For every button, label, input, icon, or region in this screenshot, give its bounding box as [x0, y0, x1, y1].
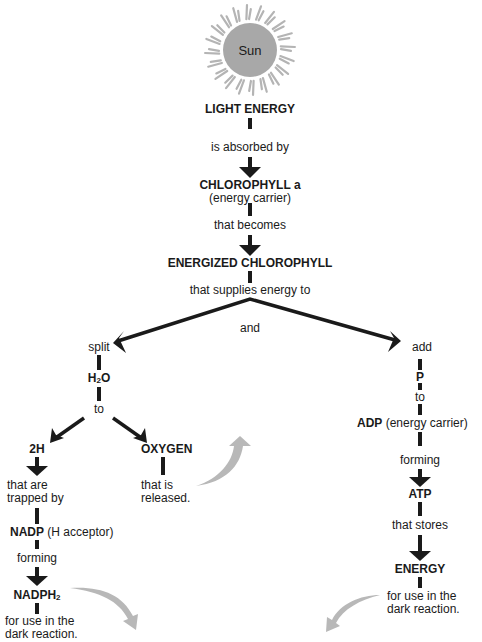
arrowhead-right-icon [388, 331, 401, 352]
nadph-use-line2: dark reaction. [5, 628, 78, 641]
forming-label-right: forming [400, 454, 440, 467]
h2o-main: H [88, 371, 97, 385]
released-line2: released. [141, 492, 190, 505]
adp-label: ADP (energy carrier) [357, 417, 468, 430]
energy-use-line2: dark reaction. [387, 603, 460, 616]
chlorophyll-energy-carrier-label: (energy carrier) [209, 192, 291, 205]
h2o-split-arrows [57, 418, 140, 437]
nadph-to-dark-reaction-arrow-icon [70, 588, 138, 630]
nadph-main: NADPH [13, 588, 56, 602]
and-label: and [240, 322, 260, 335]
adp-name: ADP [357, 416, 382, 430]
light-energy-label: LIGHT ENERGY [205, 103, 295, 116]
forming-label-left: forming [17, 552, 57, 565]
absorbed-by-label: is absorbed by [211, 141, 289, 154]
adp-energy-carrier-note: (energy carrier) [386, 416, 468, 430]
supplies-energy-label: that supplies energy to [190, 284, 311, 297]
two-h-label: 2H [29, 443, 44, 456]
oxygen-released-arrow-icon [196, 436, 251, 486]
sun-label: Sun [238, 44, 261, 57]
that-becomes-label: that becomes [214, 219, 286, 232]
nadp-label: NADP (H acceptor) [10, 526, 113, 539]
energy-label: ENERGY [395, 563, 446, 576]
h2o-label: H2O [88, 372, 110, 387]
arrowhead-left-icon [113, 331, 126, 353]
nadp-name: NADP [10, 525, 44, 539]
energy-to-dark-reaction-arrow-icon [326, 595, 380, 632]
that-stores-label: that stores [392, 519, 448, 532]
h-acceptor-note: (H acceptor) [47, 525, 113, 539]
to-label-right: to [415, 391, 425, 404]
oxygen-label: OXYGEN [141, 443, 192, 456]
energized-chlorophyll-label: ENERGIZED CHLOROPHYLL [168, 257, 333, 270]
h2o-tail: O [101, 371, 110, 385]
add-label: add [412, 341, 432, 354]
atp-label: ATP [408, 488, 431, 501]
nadph-subscript: 2 [56, 593, 60, 602]
nadph2-label: NADPH2 [13, 589, 60, 604]
p-label: P [416, 371, 424, 384]
grey-arrows [70, 436, 380, 632]
split-label: split [88, 341, 109, 354]
oxygen-connector [161, 457, 165, 475]
to-label-left: to [94, 403, 104, 416]
trapped-line2: trapped by [7, 492, 64, 505]
